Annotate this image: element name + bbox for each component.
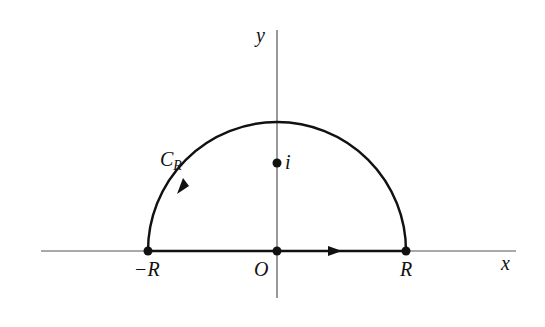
r-label: R xyxy=(399,258,412,280)
y-axis-label: y xyxy=(254,24,265,47)
arc-arrow-icon xyxy=(177,178,189,194)
contour-label-sub: R xyxy=(172,158,182,173)
x-axis-label: x xyxy=(500,252,510,274)
origin-label: O xyxy=(254,258,268,280)
point-i xyxy=(273,159,282,168)
point-r xyxy=(402,247,411,256)
point-origin xyxy=(273,247,282,256)
point-minus-r xyxy=(144,247,153,256)
i-label: i xyxy=(285,151,291,173)
contour-label-main: C xyxy=(160,148,174,170)
minus-r-label: −R xyxy=(134,258,160,280)
contour-label: CR xyxy=(160,148,182,173)
contour-diagram: y x O −R R i CR xyxy=(0,0,545,327)
real-segment-arrow-icon xyxy=(328,246,342,256)
